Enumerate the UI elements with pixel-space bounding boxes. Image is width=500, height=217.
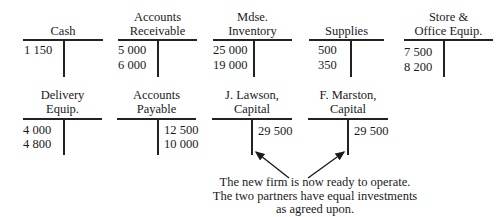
note-line: The two partners have equal investments [210,190,420,204]
note-line: as agreed upon. [210,203,420,217]
note-line: The new firm is now ready to operate. [210,176,420,190]
annotation-note: The new firm is now ready to operate. Th… [210,176,420,217]
